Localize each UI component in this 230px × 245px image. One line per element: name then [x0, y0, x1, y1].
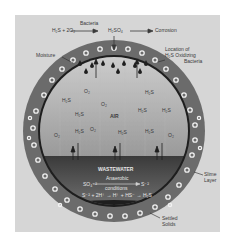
slime-layer-label-2: Layer	[204, 178, 217, 184]
reactants-label: H₂S + 2O₂	[52, 28, 75, 34]
gas-label: O₂	[90, 126, 96, 132]
settled-solids-label-2: Solids	[162, 222, 176, 228]
sulfide-equation: S⁻² + 2H⁺ → H⁺ + HS⁻ → H₂S	[82, 193, 152, 199]
gas-label: H₂S	[162, 107, 171, 113]
sewer-pipe-diagram	[0, 0, 230, 245]
anaerobic-label-2: conditions	[105, 186, 128, 192]
slime-pointer	[194, 172, 203, 175]
product-label: H₂SO₄	[108, 28, 123, 34]
gas-label: H₂S	[138, 107, 147, 113]
moisture-label: Moisture	[36, 53, 55, 59]
gas-label: O₂	[101, 101, 107, 107]
gas-label: H₂S	[118, 129, 127, 135]
bacteria-location-label-3: Bacteria	[184, 59, 202, 65]
gas-label: O₂	[84, 88, 90, 94]
sulfate-label: SO₄⁻²	[83, 182, 97, 188]
gas-label: O₂	[168, 132, 174, 138]
gas-label: H₂S	[145, 89, 154, 95]
anaerobic-label-1: Anaerobic	[106, 176, 129, 182]
catalyst-label: Bacteria	[80, 21, 98, 27]
gas-label: H₂S	[145, 128, 154, 134]
gas-label: H₂S	[75, 128, 84, 134]
result-label: Corrosion	[155, 28, 177, 34]
sulfide-label: S⁻²	[141, 182, 149, 188]
gas-label: O₂	[54, 132, 60, 138]
wastewater-label: WASTEWATER	[98, 167, 133, 173]
air-label: AIR	[110, 114, 119, 120]
solids-pointer	[150, 213, 160, 218]
gas-label: H₂S	[62, 97, 71, 103]
gas-label: H₂S	[75, 111, 84, 117]
